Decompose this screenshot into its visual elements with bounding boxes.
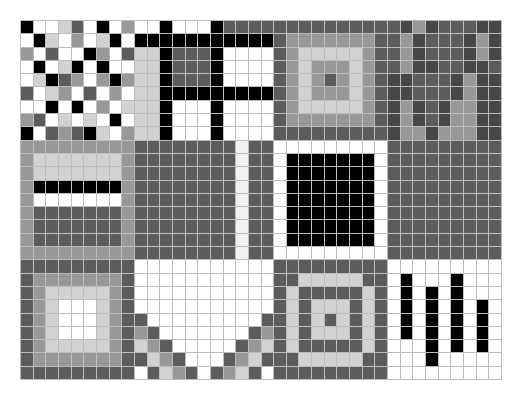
grid-cell[interactable] [262,234,274,246]
grid-cell[interactable] [375,247,387,259]
grid-cell[interactable] [299,220,311,232]
grid-cell[interactable] [287,127,299,139]
grid-cell[interactable] [337,74,349,86]
grid-cell[interactable] [401,48,413,60]
grid-cell[interactable] [249,220,261,232]
grid-cell[interactable] [413,167,425,179]
grid-cell[interactable] [426,154,438,166]
grid-cell[interactable] [375,127,387,139]
grid-cell[interactable] [439,101,451,113]
grid-cell[interactable] [262,314,274,326]
grid-cell[interactable] [413,220,425,232]
grid-cell[interactable] [477,87,489,99]
grid-cell[interactable] [299,21,311,33]
grid-cell[interactable] [477,314,489,326]
grid-cell[interactable] [198,353,210,365]
grid-cell[interactable] [375,327,387,339]
grid-cell[interactable] [236,194,248,206]
grid-cell[interactable] [363,234,375,246]
grid-cell[interactable] [21,154,33,166]
grid-cell[interactable] [198,21,210,33]
grid-cell[interactable] [439,353,451,365]
grid-cell[interactable] [350,340,362,352]
grid-cell[interactable] [173,194,185,206]
grid-cell[interactable] [21,327,33,339]
grid-cell[interactable] [224,34,236,46]
grid-cell[interactable] [21,314,33,326]
grid-cell[interactable] [350,127,362,139]
grid-cell[interactable] [84,141,96,153]
grid-cell[interactable] [287,167,299,179]
grid-cell[interactable] [375,87,387,99]
grid-cell[interactable] [160,274,172,286]
grid-cell[interactable] [299,127,311,139]
grid-cell[interactable] [72,61,84,73]
grid-cell[interactable] [21,61,33,73]
grid-cell[interactable] [84,353,96,365]
grid-cell[interactable] [122,300,134,312]
grid-cell[interactable] [337,234,349,246]
grid-cell[interactable] [97,141,109,153]
grid-cell[interactable] [198,74,210,86]
grid-cell[interactable] [211,220,223,232]
grid-cell[interactable] [97,260,109,272]
grid-cell[interactable] [426,340,438,352]
grid-cell[interactable] [148,48,160,60]
grid-cell[interactable] [21,340,33,352]
grid-cell[interactable] [287,114,299,126]
grid-cell[interactable] [325,260,337,272]
grid-cell[interactable] [287,300,299,312]
grid-cell[interactable] [186,327,198,339]
grid-cell[interactable] [363,367,375,379]
grid-cell[interactable] [160,260,172,272]
grid-cell[interactable] [110,21,122,33]
grid-cell[interactable] [72,141,84,153]
grid-cell[interactable] [299,87,311,99]
grid-cell[interactable] [375,194,387,206]
grid-cell[interactable] [477,300,489,312]
grid-cell[interactable] [249,34,261,46]
grid-cell[interactable] [439,260,451,272]
grid-cell[interactable] [413,181,425,193]
grid-cell[interactable] [148,194,160,206]
grid-cell[interactable] [110,114,122,126]
grid-cell[interactable] [274,74,286,86]
grid-cell[interactable] [489,353,501,365]
grid-cell[interactable] [375,74,387,86]
grid-cell[interactable] [211,194,223,206]
grid-cell[interactable] [21,300,33,312]
grid-cell[interactable] [439,114,451,126]
grid-cell[interactable] [337,48,349,60]
grid-cell[interactable] [122,340,134,352]
grid-cell[interactable] [148,234,160,246]
grid-cell[interactable] [21,220,33,232]
grid-cell[interactable] [287,181,299,193]
grid-cell[interactable] [122,127,134,139]
grid-cell[interactable] [401,247,413,259]
grid-cell[interactable] [34,194,46,206]
grid-cell[interactable] [413,234,425,246]
grid-cell[interactable] [350,353,362,365]
grid-cell[interactable] [477,234,489,246]
grid-cell[interactable] [413,21,425,33]
grid-cell[interactable] [375,34,387,46]
grid-cell[interactable] [375,314,387,326]
grid-cell[interactable] [186,220,198,232]
grid-cell[interactable] [325,181,337,193]
grid-cell[interactable] [325,274,337,286]
grid-cell[interactable] [249,247,261,259]
grid-cell[interactable] [236,48,248,60]
grid-cell[interactable] [59,367,71,379]
grid-cell[interactable] [135,220,147,232]
grid-cell[interactable] [135,300,147,312]
grid-cell[interactable] [299,287,311,299]
grid-cell[interactable] [274,141,286,153]
grid-cell[interactable] [122,181,134,193]
grid-cell[interactable] [173,48,185,60]
grid-cell[interactable] [122,34,134,46]
grid-cell[interactable] [350,194,362,206]
grid-cell[interactable] [84,48,96,60]
grid-cell[interactable] [198,167,210,179]
grid-cell[interactable] [350,367,362,379]
grid-cell[interactable] [224,300,236,312]
